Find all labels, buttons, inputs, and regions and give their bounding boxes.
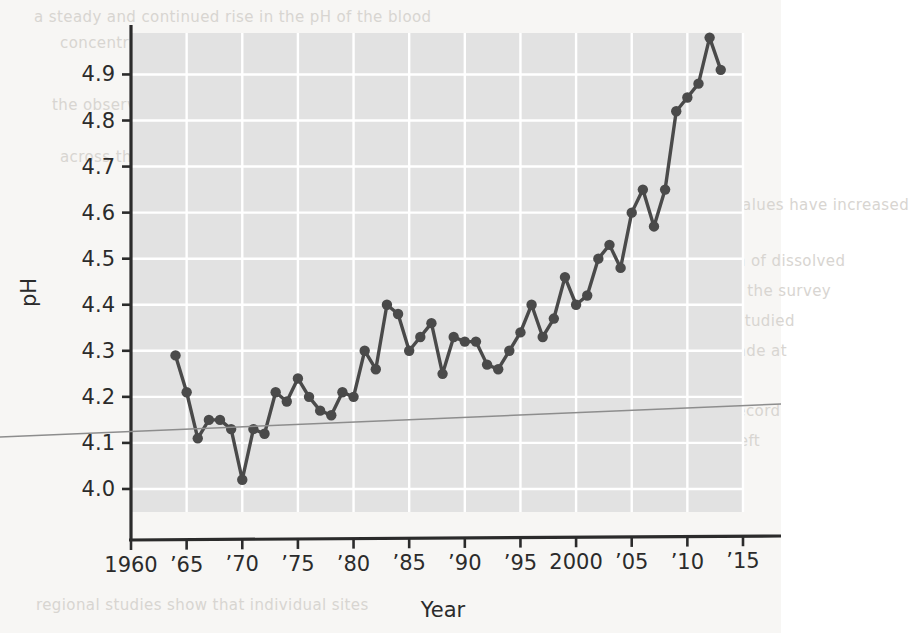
x-tick-label: ’10	[671, 550, 704, 574]
data-point-marker	[526, 300, 536, 310]
data-point-marker	[270, 387, 280, 397]
data-point-marker	[660, 184, 670, 194]
data-point-marker	[593, 253, 603, 263]
data-point-marker	[304, 392, 314, 402]
data-point-marker	[237, 475, 247, 485]
data-point-marker	[471, 336, 481, 346]
data-point-marker	[460, 336, 470, 346]
x-tick-label: ’15	[726, 549, 759, 573]
data-point-marker	[504, 346, 514, 356]
data-point-marker	[415, 332, 425, 342]
data-point-marker	[393, 309, 403, 319]
x-tick-label: ’75	[281, 552, 314, 576]
data-point-marker	[282, 396, 292, 406]
x-tick-label: ’65	[170, 553, 203, 577]
x-tick-label: ’95	[504, 551, 537, 575]
y-tick-label: 4.4	[82, 293, 115, 317]
x-axis-line	[129, 536, 781, 540]
x-tick-label: ’85	[392, 551, 425, 575]
data-point-marker	[582, 290, 592, 300]
y-tick-label: 4.5	[82, 247, 115, 271]
y-axis-title: pH	[17, 278, 41, 307]
data-point-marker	[716, 65, 726, 75]
y-tick-label: 4.9	[82, 62, 115, 86]
x-tick-label: 2000	[549, 550, 602, 574]
data-point-marker	[326, 410, 336, 420]
data-point-marker	[371, 364, 381, 374]
data-point-marker	[293, 373, 303, 383]
data-point-marker	[560, 272, 570, 282]
x-tick-label: ’90	[448, 551, 481, 575]
data-point-marker	[170, 350, 180, 360]
data-point-marker	[226, 424, 236, 434]
data-point-marker	[404, 346, 414, 356]
data-point-marker	[638, 184, 648, 194]
data-point-marker	[493, 364, 503, 374]
y-tick-label: 4.0	[82, 477, 115, 501]
data-point-marker	[426, 318, 436, 328]
data-point-marker	[448, 332, 458, 342]
data-point-marker	[348, 392, 358, 402]
y-tick-label: 4.6	[82, 201, 115, 225]
data-point-marker	[627, 207, 637, 217]
x-tick-label: ’80	[337, 552, 370, 576]
data-point-marker	[215, 415, 225, 425]
y-tick-label: 4.3	[82, 339, 115, 363]
data-point-marker	[571, 300, 581, 310]
data-point-marker	[693, 78, 703, 88]
data-point-marker	[682, 92, 692, 102]
data-point-marker	[482, 359, 492, 369]
data-point-marker	[615, 263, 625, 273]
y-tick-label: 4.1	[82, 431, 115, 455]
data-point-marker	[704, 32, 714, 42]
y-tick-label: 4.2	[82, 385, 115, 409]
data-point-marker	[538, 332, 548, 342]
data-point-marker	[315, 405, 325, 415]
plot-area-background	[131, 33, 743, 512]
x-axis-tick-labels: 1960’65’70’75’80’85’90’952000’05’10’15	[104, 549, 759, 577]
data-point-marker	[359, 346, 369, 356]
x-axis-title: Year	[420, 598, 466, 622]
data-point-marker	[437, 369, 447, 379]
data-point-marker	[649, 221, 659, 231]
data-point-marker	[193, 433, 203, 443]
y-tick-label: 4.8	[82, 109, 115, 133]
data-point-marker	[259, 429, 269, 439]
y-tick-label: 4.7	[82, 155, 115, 179]
y-axis-tick-labels: 4.04.14.24.34.44.54.64.74.84.9	[82, 62, 115, 501]
x-tick-label: ’05	[615, 550, 648, 574]
data-point-marker	[671, 106, 681, 116]
data-point-marker	[382, 300, 392, 310]
data-point-marker	[515, 327, 525, 337]
x-tick-label: 1960	[104, 553, 157, 577]
data-point-marker	[604, 240, 614, 250]
data-point-marker	[204, 415, 214, 425]
x-tick-label: ’70	[226, 552, 259, 576]
data-point-marker	[337, 387, 347, 397]
data-point-marker	[181, 387, 191, 397]
data-point-marker	[549, 313, 559, 323]
